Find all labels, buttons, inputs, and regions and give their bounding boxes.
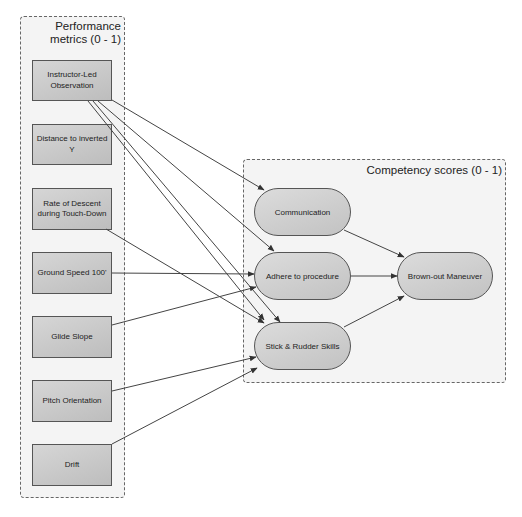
edge-instructor-stick-b <box>88 101 264 320</box>
edge-glideslope-adhere <box>112 287 256 325</box>
edge-communication-brownout <box>344 230 404 257</box>
edge-instructor-adhere <box>98 101 274 251</box>
edges-layer <box>0 0 522 517</box>
edge-descent-stick <box>106 229 264 323</box>
edge-instructor-communication <box>112 100 264 190</box>
edge-instructor-stick-a <box>93 101 280 322</box>
edge-drift-stick <box>112 368 257 444</box>
edge-groundspeed-adhere <box>112 273 254 274</box>
edge-stick-brownout <box>344 296 404 327</box>
edge-pitch-stick <box>112 357 256 391</box>
